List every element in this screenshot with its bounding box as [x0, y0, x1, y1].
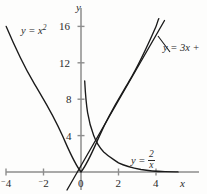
- curve-label-line: y = 3x +: [163, 43, 200, 54]
- fraction-2-over-x: 2x: [148, 150, 155, 170]
- exponent-2: 2: [43, 23, 47, 32]
- x-tick-label-0: 0: [78, 178, 84, 189]
- curve-parabola: [6, 19, 159, 172]
- x-tick-label--2: −2: [39, 178, 49, 189]
- fraction-denominator: x: [148, 160, 155, 171]
- x-tick-label--4: −4: [1, 178, 11, 189]
- y-axis-label: y: [76, 2, 81, 13]
- x-axis-label: x: [180, 178, 185, 189]
- curve-label-parabola: y = x2: [21, 24, 46, 37]
- y-tick-label-8: 8: [66, 94, 72, 105]
- x-tick-label-2: 2: [116, 178, 122, 189]
- x-tick-label-4: 4: [153, 178, 159, 189]
- curve-label-hyperbola: y = 2x: [131, 150, 155, 170]
- y-tick-label-16: 16: [59, 21, 70, 32]
- y-tick-label-4: 4: [66, 131, 72, 142]
- fraction-numerator: 2: [148, 150, 155, 160]
- y-tick-label-12: 12: [59, 58, 70, 69]
